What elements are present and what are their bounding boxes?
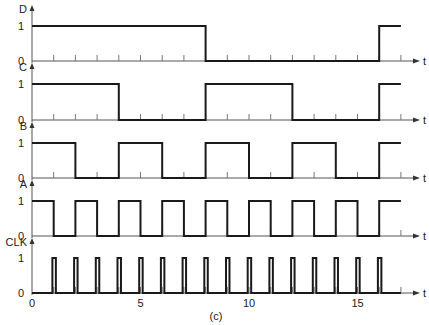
signal-name-label: B — [20, 120, 27, 132]
timing-diagram: tD10tC10tB10tA10tCLK10 051015 (c) — [0, 0, 429, 325]
x-tick-label: 0 — [29, 297, 35, 309]
waveform-b — [32, 143, 401, 178]
signal-row-c: tC10 — [18, 61, 426, 126]
x-tick-label: 10 — [243, 297, 255, 309]
time-axis-label: t — [423, 287, 426, 299]
y-axis-arrow-icon — [30, 238, 35, 244]
x-tick-label: 15 — [351, 297, 363, 309]
signal-name-label: A — [20, 178, 28, 190]
level-high-label: 1 — [18, 195, 24, 207]
time-axis-labels: 051015 — [29, 297, 364, 309]
figure-caption: (c) — [210, 310, 223, 322]
x-axis-arrow-icon — [413, 291, 420, 296]
time-axis-label: t — [423, 172, 426, 184]
waveform-c — [32, 84, 401, 120]
level-low-label: 0 — [18, 287, 24, 299]
y-axis-arrow-icon — [30, 122, 35, 128]
level-high-label: 1 — [18, 252, 24, 264]
x-tick-label: 5 — [137, 297, 143, 309]
time-axis-label: t — [423, 230, 426, 242]
time-axis-label: t — [423, 55, 426, 67]
y-axis-arrow-icon — [30, 63, 35, 69]
level-high-label: 1 — [18, 137, 24, 149]
signal-name-label: CLK — [6, 236, 28, 248]
waveform-d — [32, 26, 401, 61]
signal-rows: tD10tC10tB10tA10tCLK10 — [6, 3, 426, 299]
x-axis-arrow-icon — [413, 118, 420, 123]
signal-row-b: tB10 — [18, 120, 426, 184]
level-high-label: 1 — [18, 78, 24, 90]
x-axis-arrow-icon — [413, 234, 420, 239]
signal-row-clk: tCLK10 — [6, 236, 426, 299]
signal-row-a: tA10 — [18, 178, 426, 242]
signal-name-label: D — [19, 3, 27, 15]
y-axis-arrow-icon — [30, 5, 35, 11]
level-high-label: 1 — [18, 20, 24, 32]
waveform-a — [32, 201, 401, 236]
time-axis-label: t — [423, 114, 426, 126]
signal-row-d: tD10 — [18, 3, 426, 67]
y-axis-arrow-icon — [30, 180, 35, 186]
signal-name-label: C — [19, 61, 27, 73]
x-axis-arrow-icon — [413, 59, 420, 64]
waveform-clk — [32, 258, 401, 293]
x-axis-arrow-icon — [413, 176, 420, 181]
